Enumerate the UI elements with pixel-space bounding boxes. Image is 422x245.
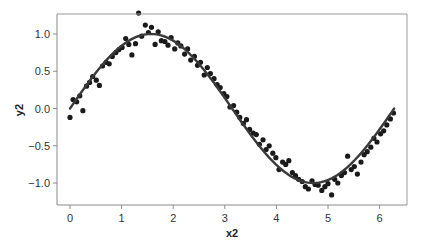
- x-tick-label: 1: [119, 212, 125, 224]
- y-tick-label: −1.0: [28, 177, 50, 189]
- data-point: [345, 154, 350, 159]
- y-tick-label: 0.0: [35, 103, 50, 115]
- data-point: [273, 155, 278, 160]
- y-axis-ticks: 1.00.50.0−0.5−1.0: [28, 28, 57, 189]
- data-point: [165, 43, 170, 48]
- x-axis-ticks: 0123456: [67, 205, 383, 224]
- data-point: [133, 41, 138, 46]
- data-point: [67, 115, 72, 120]
- data-point: [149, 25, 154, 30]
- data-point: [267, 143, 272, 148]
- data-point: [329, 192, 334, 197]
- data-point: [254, 132, 259, 137]
- data-point: [107, 61, 112, 66]
- data-point: [260, 137, 265, 142]
- data-point: [172, 46, 177, 51]
- x-tick-label: 2: [170, 212, 176, 224]
- scatter-chart: 0123456 1.00.50.0−0.5−1.0 x2 y2: [0, 0, 422, 245]
- y-axis-label: y2: [13, 104, 25, 116]
- x-tick-label: 5: [325, 212, 331, 224]
- data-point: [205, 65, 210, 70]
- x-tick-label: 3: [222, 212, 228, 224]
- data-point: [355, 172, 360, 177]
- data-point: [80, 108, 85, 113]
- x-tick-label: 0: [67, 212, 73, 224]
- data-point: [143, 23, 148, 28]
- data-point: [358, 160, 363, 165]
- data-point: [153, 42, 158, 47]
- data-point: [306, 186, 311, 191]
- y-tick-label: 1.0: [35, 28, 50, 40]
- data-point: [97, 83, 102, 88]
- data-point: [286, 158, 291, 163]
- data-point: [270, 151, 275, 156]
- data-point: [244, 117, 249, 122]
- x-tick-label: 6: [377, 212, 383, 224]
- y-tick-label: 0.5: [35, 65, 50, 77]
- x-axis-label: x2: [226, 227, 238, 239]
- y-tick-label: −0.5: [28, 140, 50, 152]
- data-point: [374, 139, 379, 144]
- data-point: [352, 164, 357, 169]
- data-point: [136, 11, 141, 16]
- data-point: [94, 78, 99, 83]
- data-point: [335, 180, 340, 185]
- data-point: [129, 52, 134, 57]
- x-tick-label: 4: [273, 212, 279, 224]
- data-point: [381, 128, 386, 133]
